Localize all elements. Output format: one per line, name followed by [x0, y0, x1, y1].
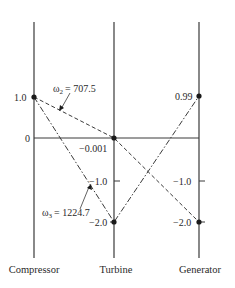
- mode2-shape-line: [34, 97, 199, 222]
- station-label-generator: Generator: [179, 264, 221, 275]
- label-zero: 0: [25, 133, 30, 144]
- label-generator-minus-one: −1.0: [173, 176, 191, 187]
- station-label-compressor: Compressor: [9, 264, 60, 275]
- label-turbine-minus-0001: −0.001: [79, 143, 107, 154]
- label-compressor-one: 1.0: [14, 92, 27, 103]
- mode-shape-diagram: 1.0 0 −0.001 −1.0 −2.0 0.99 −1.0 −2.0 ω2…: [0, 0, 235, 288]
- omega3-label: ω3= 1224.7: [42, 207, 90, 220]
- label-generator-minus-two: −2.0: [173, 217, 191, 228]
- mode3-shape-line: [34, 96, 199, 222]
- turbine-zero-point: [111, 135, 116, 140]
- station-label-turbine: Turbine: [100, 264, 133, 275]
- omega2-arrowhead: [59, 105, 64, 111]
- omega3-leader: [80, 187, 89, 209]
- omega2-label: ω2= 707.5: [53, 83, 96, 96]
- label-turbine-minus-two: −2.0: [89, 217, 107, 228]
- label-turbine-minus-one: −1.0: [89, 176, 107, 187]
- label-generator-099: 0.99: [175, 91, 193, 102]
- generator-minus-two-point: [196, 219, 201, 224]
- generator-099-point: [196, 93, 201, 98]
- compressor-point: [31, 94, 36, 99]
- turbine-minus-two-point: [111, 219, 116, 224]
